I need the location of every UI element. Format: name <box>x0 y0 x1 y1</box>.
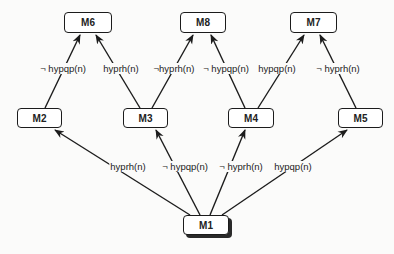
node-label: M3 <box>139 113 153 124</box>
node-m7: M7 <box>290 12 337 33</box>
node-m8: M8 <box>180 12 226 33</box>
node-m6: M6 <box>64 12 112 33</box>
edge-label: ¬hyprh(n) <box>153 63 196 74</box>
edge-label: hyprh(n) <box>102 63 139 74</box>
edge-label: hypqp(n) <box>257 63 297 74</box>
edge-m1-m2 <box>55 130 190 215</box>
edge-label: ¬ hyprh(n) <box>315 63 361 74</box>
node-m2: M2 <box>17 108 62 128</box>
node-label: M5 <box>354 113 368 124</box>
node-m3: M3 <box>123 108 168 128</box>
node-label: M4 <box>244 113 258 124</box>
edge-label: ¬ hyprh(n) <box>218 161 264 172</box>
edge-label: hyprh(n) <box>109 161 146 172</box>
node-label: M7 <box>307 17 321 28</box>
edge-label: ¬ hypqp(n) <box>161 161 209 172</box>
edge-label: hypqp(n) <box>273 161 313 172</box>
edge-m1-m5 <box>222 130 347 215</box>
edge-label: ¬ hypqp(n) <box>202 63 250 74</box>
node-label: M6 <box>81 17 95 28</box>
node-m1: M1 <box>183 215 229 235</box>
edge-m1-m3 <box>156 130 200 215</box>
node-label: M8 <box>196 17 210 28</box>
edge-label: ¬ hypqp(n) <box>39 63 87 74</box>
node-m4: M4 <box>228 108 274 128</box>
node-label: M2 <box>33 113 47 124</box>
node-label: M1 <box>199 220 213 231</box>
node-m5: M5 <box>338 108 383 128</box>
state-transition-diagram: M6M8M7M2M3M4M5M1 hyprh(n)¬ hypqp(n)¬ hyp… <box>0 0 394 254</box>
